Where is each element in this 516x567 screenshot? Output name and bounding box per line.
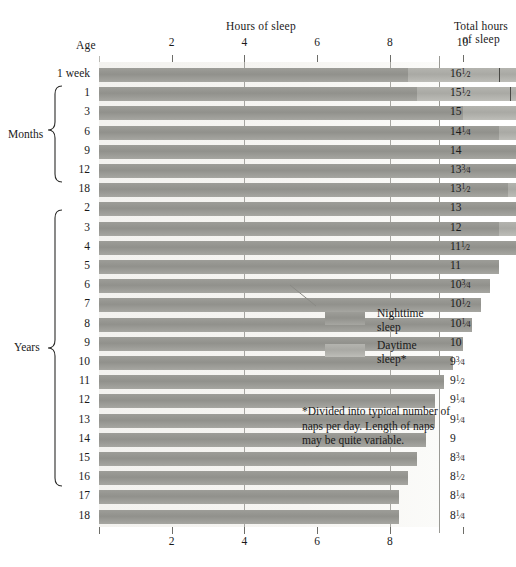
total-hours-value: 11 [450,259,461,271]
total-hours-value: 13 [450,201,462,213]
age-label-8: 8 [52,317,90,329]
age-label-9: 9 [52,336,90,348]
age-label-17: 17 [52,489,90,501]
bar-segment-daytime [499,126,516,140]
tick-label-bottom-2: 2 [169,535,175,547]
total-hours-value: 111⁄2 [450,240,470,252]
age-label-6: 6 [52,125,90,137]
age-label-14: 14 [52,432,90,444]
age-label-6: 6 [52,278,90,290]
tick-label-top-6: 6 [314,36,320,48]
bar-segment-nighttime [99,375,444,389]
tick-top-4 [244,55,245,62]
total-hours-value: 15 [450,105,462,117]
tick-bottom-0 [99,527,100,534]
total-hours-value: 91⁄4 [450,393,465,405]
legend-swatch-nighttime-icon [325,312,365,325]
tick-label-top-8: 8 [387,36,393,48]
total-hours-value: 131⁄2 [450,182,471,194]
chart-title-hours-of-sleep: Hours of sleep [226,20,296,32]
age-label-4: 4 [52,240,90,252]
age-label-3: 3 [52,221,90,233]
tick-label-top-2: 2 [169,36,175,48]
total-hours-value: 81⁄2 [450,470,465,482]
total-hours-value: 151⁄2 [450,86,471,98]
bar-segment-nighttime [99,260,499,274]
total-hours-value: 14 [450,144,462,156]
total-hours-value: 81⁄4 [450,489,465,501]
tick-bottom-2 [172,527,173,534]
tick-top-2 [172,55,173,62]
total-hours-value: 161⁄2 [450,67,471,79]
age-label-1: 1 [52,86,90,98]
age-label-18: 18 [52,509,90,521]
bar-segment-nighttime [99,510,399,524]
tick-top-10 [463,55,464,62]
tick-label-bottom-6: 6 [314,535,320,547]
age-label-9: 9 [52,144,90,156]
bar-segment-nighttime [99,279,490,293]
age-label-12: 12 [52,163,90,175]
bar-segment-nighttime [99,126,499,140]
total-hours-value: 91⁄4 [450,413,465,425]
bar-segment-nighttime [99,222,499,236]
footnote-text: *Divided into typical number of naps per… [302,404,452,448]
tick-top-6 [317,55,318,62]
total-hours-value: 91⁄2 [450,374,465,386]
age-label-2: 2 [52,201,90,213]
bar-segment-nighttime [99,87,417,101]
total-hours-value: 133⁄4 [450,163,471,175]
age-label-13: 13 [52,413,90,425]
bar-segment-nighttime [99,471,408,485]
bar-segment-nighttime [99,490,399,504]
tick-bottom-6 [317,527,318,534]
bar-segment-nighttime [99,183,508,197]
tick-top-8 [390,55,391,62]
bar-segment-nighttime [99,68,408,82]
tick-label-top-4: 4 [242,36,248,48]
bar-segment-daytime [463,106,516,120]
bar-segment-daytime [499,222,516,236]
age-label-11: 11 [52,374,90,386]
legend-label-nighttime: Nighttimesleep [377,307,453,334]
sleep-chart: Hours of sleep Age Total hoursof sleep 2… [0,0,516,567]
age-label-15: 15 [52,451,90,463]
age-label-16: 16 [52,470,90,482]
total-hours-value: 81⁄4 [450,509,465,521]
bar-segment-daytime [508,183,516,197]
age-label-5: 5 [52,259,90,271]
total-hours-value: 141⁄4 [450,125,471,137]
axis-title-age: Age [76,39,96,51]
total-hours-value: 101⁄2 [450,297,471,309]
nap-divider [499,68,501,82]
legend-swatch-daytime-icon [325,344,365,357]
age-label-18: 18 [52,182,90,194]
age-label-3: 3 [52,105,90,117]
total-hours-value: 103⁄4 [450,278,471,290]
group-label-years: Years [14,341,40,353]
total-hours-value: 101⁄4 [450,317,471,329]
legend-label-daytime: Daytimesleep* [377,339,453,366]
group-label-months: Months [8,128,43,140]
total-hours-value: 12 [450,221,462,233]
tick-bottom-8 [390,527,391,534]
bar-segment-nighttime [99,452,417,466]
tick-label-bottom-8: 8 [387,535,393,547]
age-label-12: 12 [52,393,90,405]
age-label-7: 7 [52,297,90,309]
nap-divider [510,87,512,101]
total-hours-value: 83⁄4 [450,451,465,463]
tick-label-bottom-4: 4 [242,535,248,547]
tick-label-top-10: 10 [457,36,469,48]
age-label-10: 10 [52,355,90,367]
age-label-1-week: 1 week [28,67,90,79]
bar-segment-nighttime [99,106,463,120]
tick-bottom-4 [244,527,245,534]
tick-bottom-10 [463,527,464,534]
